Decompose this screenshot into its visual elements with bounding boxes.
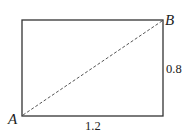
point-a-label: A bbox=[7, 111, 18, 127]
width-label: 1.2 bbox=[85, 119, 101, 133]
point-b-label: B bbox=[165, 12, 174, 28]
rectangle bbox=[22, 20, 163, 116]
height-label: 0.8 bbox=[166, 62, 182, 76]
diagonal-ab-dashed bbox=[23, 21, 162, 115]
rectangle-diagram: A B 0.8 1.2 bbox=[0, 0, 188, 136]
